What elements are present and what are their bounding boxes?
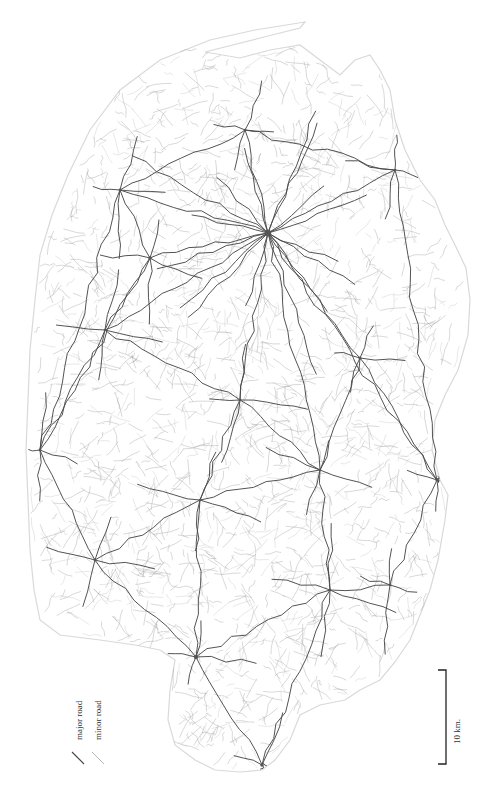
town-marker-central-town: [265, 230, 271, 236]
map-canvas: major road minor road 10 km.: [0, 0, 487, 794]
town-marker-south-town: [194, 655, 198, 659]
scale-bar-line: [438, 670, 446, 764]
town-marker-mid-east-town: [319, 469, 322, 472]
scale-label: 10 km.: [452, 719, 462, 744]
minor-road-swatch: [92, 752, 104, 764]
town-marker-center-south-town: [239, 399, 242, 402]
legend: major road minor road: [72, 700, 104, 764]
town-marker-south-east-village: [389, 584, 391, 586]
town-marker-east-town: [358, 356, 361, 359]
legend-major-label: major road: [74, 700, 84, 740]
town-marker-southwest-town: [94, 559, 97, 562]
town-marker-west-coast-town: [39, 449, 42, 452]
road-network-map: major road minor road 10 km.: [0, 0, 487, 794]
town-marker-mid-west-town: [104, 329, 107, 332]
region-outline: [26, 22, 470, 772]
major-road-swatch: [72, 752, 84, 764]
town-marker-southeast-town: [435, 478, 438, 481]
town-marker-northwest-town: [119, 189, 122, 192]
town-marker-south-junction: [329, 589, 332, 592]
town-marker-mid-town: [199, 499, 202, 502]
scale-bar: 10 km.: [438, 670, 462, 764]
town-marker-southern-port: [260, 763, 264, 767]
town-marker-northeast-town: [394, 169, 397, 172]
town-marker-north-town: [244, 129, 247, 132]
town-marker-west-town: [148, 256, 152, 260]
legend-minor-label: minor road: [93, 700, 103, 740]
